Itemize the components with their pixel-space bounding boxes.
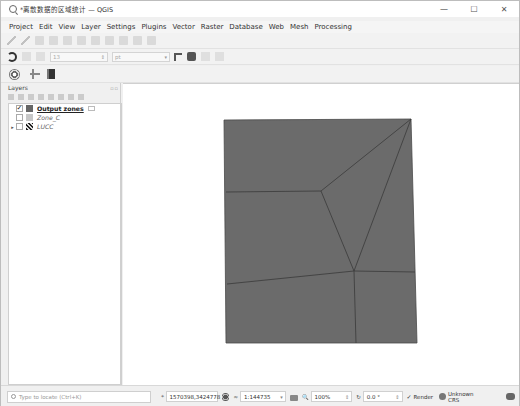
crs-globe-icon[interactable] xyxy=(439,393,446,400)
layer-visibility-checkbox[interactable] xyxy=(16,114,23,121)
qgis-logo-icon xyxy=(9,5,17,13)
render-label: Render xyxy=(414,394,434,400)
layers-panel: Layers ▫▫ ✓ Output zones xyxy=(5,83,122,385)
title-bar: *离散数据的区域统计 — QGIS — ☐ ✕ xyxy=(1,1,519,17)
plugin-icon[interactable] xyxy=(30,69,42,79)
status-bar: Type to locate (Ctrl+K) ⌖ 1570398,342477… xyxy=(1,385,519,406)
layers-panel-header: Layers ▫▫ xyxy=(5,83,122,92)
coordinate-field[interactable]: 1570398,3424778 xyxy=(166,391,218,402)
locator-search-input[interactable]: Type to locate (Ctrl+K) xyxy=(7,391,151,403)
snapping-icon[interactable] xyxy=(174,53,182,61)
menu-plugins[interactable]: Plugins xyxy=(141,23,166,31)
collapse-all-icon[interactable] xyxy=(68,94,74,100)
menu-web[interactable]: Web xyxy=(269,23,284,31)
search-icon xyxy=(11,394,16,399)
layer-visibility-checkbox[interactable] xyxy=(16,123,23,130)
menu-view[interactable]: View xyxy=(59,23,76,31)
open-styling-icon[interactable] xyxy=(8,94,14,100)
stepper-arrows-icon[interactable]: ⇕ xyxy=(101,54,105,60)
rotate-icon[interactable] xyxy=(7,52,17,62)
split-icon[interactable] xyxy=(215,52,224,61)
menu-database[interactable]: Database xyxy=(229,23,262,31)
polygon-symbol-icon xyxy=(26,105,33,112)
label-toolbar: 13 ⇕ pt ▾ xyxy=(1,49,519,65)
vertex-tool-icon[interactable] xyxy=(63,36,72,45)
dock-icon[interactable]: ▫▫ xyxy=(110,85,119,91)
magnifier-stepper[interactable]: 100% ⇕ xyxy=(311,391,353,402)
layer-name: Output zones xyxy=(37,105,84,112)
identify-icon[interactable] xyxy=(187,52,196,61)
toggle-editing-icon[interactable] xyxy=(21,36,30,45)
menu-layer[interactable]: Layer xyxy=(81,23,101,31)
menu-edit[interactable]: Edit xyxy=(39,23,53,31)
target-icon[interactable] xyxy=(9,69,20,80)
layer-name: Zone_C xyxy=(37,114,60,121)
chevron-down-icon: ▾ xyxy=(164,54,167,60)
digitizing-toolbar xyxy=(1,33,519,49)
delete-selected-icon[interactable] xyxy=(77,36,86,45)
undo-edit-icon[interactable] xyxy=(133,36,142,45)
window-title: *离散数据的区域统计 — QGIS xyxy=(20,4,113,14)
menu-project[interactable]: Project xyxy=(9,23,33,31)
layer-row-output-zones[interactable]: ✓ Output zones xyxy=(9,104,121,113)
expand-arrow-icon[interactable]: ▸ xyxy=(9,124,16,130)
magnifier-label: 🔍 xyxy=(302,394,309,400)
raster-symbol-icon xyxy=(26,123,33,130)
render-checkbox[interactable]: ✓ xyxy=(407,393,412,400)
toggle-extents-icon[interactable] xyxy=(222,393,230,401)
layer-tree: ✓ Output zones Zone_C ▸ LUCC xyxy=(8,103,122,385)
window-controls: — ☐ ✕ xyxy=(429,1,519,17)
scale-label: ≈ xyxy=(233,394,238,400)
filter-legend-icon[interactable] xyxy=(38,94,44,100)
coordinate-label: ⌖ xyxy=(161,393,164,400)
paste-features-icon[interactable] xyxy=(119,36,128,45)
font-icon[interactable] xyxy=(36,52,45,61)
style-icon[interactable] xyxy=(22,52,31,61)
chevron-down-icon: ▾ xyxy=(280,394,283,400)
map-canvas[interactable] xyxy=(123,83,519,385)
book-icon[interactable] xyxy=(47,69,55,79)
stepper-arrows-icon: ⇕ xyxy=(345,394,349,400)
layer-indicator-icon[interactable] xyxy=(88,106,95,111)
minimize-button[interactable]: — xyxy=(429,1,459,17)
layers-panel-toolbar xyxy=(5,92,122,101)
output-zones-polygons xyxy=(123,84,519,386)
layer-row-lucc[interactable]: ▸ LUCC xyxy=(9,122,121,131)
rotation-label: ↻ xyxy=(356,394,361,400)
remove-layer-icon[interactable] xyxy=(78,94,84,100)
add-feature-icon[interactable] xyxy=(49,36,58,45)
menu-settings[interactable]: Settings xyxy=(107,23,136,31)
crs-button[interactable]: Unknown CRS xyxy=(448,391,486,403)
qgis-window: *离散数据的区域统计 — QGIS — ☐ ✕ Project Edit Vie… xyxy=(0,0,520,406)
menu-processing[interactable]: Processing xyxy=(314,23,351,31)
layer-row-zone-c[interactable]: Zone_C xyxy=(9,113,121,122)
cut-features-icon[interactable] xyxy=(91,36,100,45)
font-size-stepper[interactable]: 13 ⇕ xyxy=(50,52,108,62)
maximize-button[interactable]: ☐ xyxy=(459,1,489,17)
polygon-symbol-icon xyxy=(26,114,33,121)
copy-features-icon[interactable] xyxy=(105,36,114,45)
menu-bar: Project Edit View Layer Settings Plugins… xyxy=(1,21,519,33)
menu-raster[interactable]: Raster xyxy=(201,23,224,31)
redo-edit-icon[interactable] xyxy=(147,36,156,45)
layers-panel-title: Layers xyxy=(8,84,28,91)
close-button[interactable]: ✕ xyxy=(489,1,519,17)
filter-expression-icon[interactable] xyxy=(48,94,54,100)
rotation-stepper[interactable]: 0.0 ° ⇕ xyxy=(363,391,403,402)
messages-icon[interactable] xyxy=(506,393,515,400)
save-edits-icon[interactable] xyxy=(35,36,44,45)
lock-scale-icon[interactable] xyxy=(290,395,298,401)
current-edits-icon[interactable] xyxy=(7,36,16,45)
menu-vector[interactable]: Vector xyxy=(172,23,194,31)
menu-mesh[interactable]: Mesh xyxy=(290,23,308,31)
stepper-arrows-icon: ⇕ xyxy=(395,394,399,400)
layer-name: LUCC xyxy=(37,123,54,130)
plugins-toolbar xyxy=(1,66,519,83)
layer-visibility-checkbox[interactable]: ✓ xyxy=(16,105,23,112)
add-group-icon[interactable] xyxy=(18,94,24,100)
clear-icon[interactable] xyxy=(201,52,210,61)
scale-select[interactable]: 1:144735 ▾ xyxy=(240,391,286,402)
expand-all-icon[interactable] xyxy=(58,94,64,100)
unit-select[interactable]: pt ▾ xyxy=(112,52,170,62)
manage-visibility-icon[interactable] xyxy=(28,94,34,100)
